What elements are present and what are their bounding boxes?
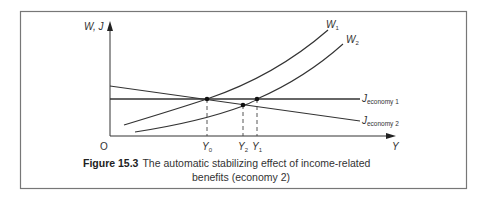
x-axis-arrow-icon <box>386 133 396 139</box>
y2-equilibrium-dot <box>241 103 246 108</box>
x-axis-label: Y <box>392 141 400 152</box>
j-economy-2-label: Jeconomy 2 <box>361 115 399 128</box>
y0-equilibrium-dot <box>205 97 210 102</box>
y-axis-arrow-icon <box>107 21 113 31</box>
figure-caption-line-1: Figure 15.3The automatic stabilizing eff… <box>83 157 371 169</box>
y-axis-label: W, J <box>84 21 105 32</box>
w2-label: W2 <box>346 34 359 46</box>
w2-curve <box>135 44 343 132</box>
y1-label: Y1 <box>252 141 263 153</box>
j-economy-2-line <box>110 86 360 121</box>
y2-label: Y2 <box>238 141 249 153</box>
figure-number: Figure 15.3 <box>83 157 139 169</box>
figure-15-3-diagram: W, J Y O W1 W2 Jeconomy 1 Jeconomy 2 Y0 … <box>0 0 488 200</box>
y1-equilibrium-dot <box>255 97 260 102</box>
j-economy-1-label: Jeconomy 1 <box>361 93 399 106</box>
figure-caption-line-2: benefits (economy 2) <box>192 171 290 183</box>
w1-label: W1 <box>326 19 339 31</box>
origin-label: O <box>100 141 108 152</box>
y0-label: Y0 <box>202 141 213 153</box>
